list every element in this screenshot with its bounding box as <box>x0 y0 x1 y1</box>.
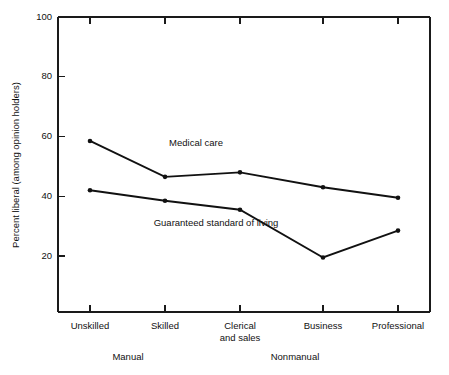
y-tick-label-100: 100 <box>36 11 52 22</box>
y-tick-label-80: 80 <box>41 70 52 81</box>
x-tick-label-0: Unskilled <box>71 320 110 331</box>
y-axis-title: Percent liberal (among opinion holders) <box>10 82 21 248</box>
group-label-1: Nonmanual <box>271 351 320 362</box>
data-point-s1-0 <box>88 188 93 193</box>
y-tick-label-60: 60 <box>41 130 52 141</box>
data-point-s0-1 <box>163 175 168 180</box>
x-tick-label-3: Business <box>304 320 343 331</box>
data-point-s0-2 <box>238 170 243 175</box>
y-tick-label-40: 40 <box>41 190 52 201</box>
data-point-s1-3 <box>321 255 326 260</box>
series-annotation-0: Medical care <box>169 137 223 148</box>
x-tick-label-2-line2: and sales <box>220 332 261 343</box>
data-point-s0-4 <box>396 195 401 200</box>
line-chart-figure: 20406080100 UnskilledSkilledClericaland … <box>0 0 449 375</box>
x-tick-label-2: Clerical <box>224 320 256 331</box>
data-point-s1-4 <box>396 228 401 233</box>
data-point-s0-3 <box>321 185 326 190</box>
x-tick-label-1: Skilled <box>151 320 179 331</box>
y-tick-label-20: 20 <box>41 250 52 261</box>
group-label-0: Manual <box>112 351 143 362</box>
x-tick-label-4: Professional <box>372 320 424 331</box>
data-point-s1-2 <box>238 207 243 212</box>
series-annotation-1: Guaranteed standard of living <box>154 217 279 228</box>
data-point-s1-1 <box>163 198 168 203</box>
data-point-s0-0 <box>88 139 93 144</box>
chart-background <box>0 0 449 375</box>
